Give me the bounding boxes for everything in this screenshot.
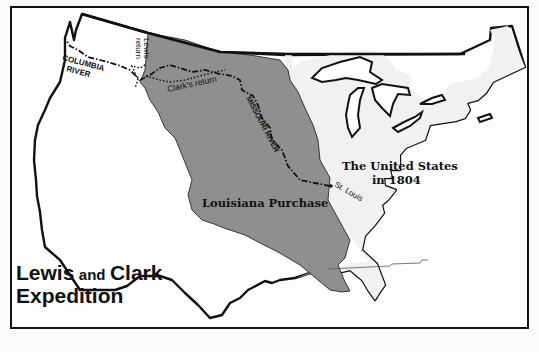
title-clark: Clark bbox=[110, 261, 163, 284]
title-lewis: Lewis bbox=[16, 261, 74, 284]
map-title: Lewis and Clark Expedition bbox=[16, 262, 162, 306]
title-and: and bbox=[79, 266, 106, 283]
title-expedition: Expedition bbox=[16, 285, 162, 306]
us-1804-label: The United States bbox=[342, 159, 458, 173]
us-1804-label-2: in 1804 bbox=[372, 173, 421, 187]
louisiana-purchase-label: Louisiana Purchase bbox=[202, 196, 328, 210]
lewis-return-label-2: return bbox=[134, 38, 143, 59]
